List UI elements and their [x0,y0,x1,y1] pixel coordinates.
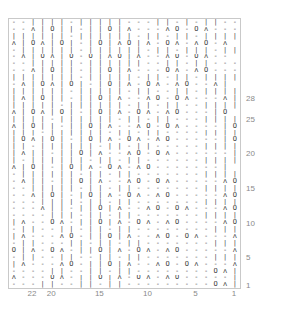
chart-cell: | [28,226,38,233]
chart-cell: | [86,219,96,226]
chart-cell: - [144,178,154,185]
chart-cell [230,54,240,61]
chart-cell: | [230,130,240,137]
chart-cell: | [47,157,57,164]
chart-cell: - [172,171,182,178]
chart-row: ----|||-||-||-------|||| [9,212,240,219]
chart-cell: | [230,102,240,109]
chart-cell: - [144,157,154,164]
chart-cell: - [57,240,67,247]
chart-cell: | [67,150,77,157]
chart-cell: ʌ [105,192,115,199]
chart-cell: - [172,116,182,123]
chart-cell: - [38,130,48,137]
chart-cell: | [38,123,48,130]
chart-cell: | [220,123,230,130]
chart-cell: - [192,143,202,150]
chart-cell: | [76,88,86,95]
chart-cell: | [134,40,144,47]
chart-cell: | [124,74,134,81]
chart-cell: | [230,143,240,150]
chart-cell: | [9,219,19,226]
chart-cell: | [47,74,57,81]
chart-cell: ʌ [172,40,182,47]
chart-cell: - [67,275,77,282]
chart-cell: | [95,185,105,192]
chart-cell: | [28,81,38,88]
chart-cell: | [76,19,86,26]
chart-cell: ʌ [124,81,134,88]
chart-cell: | [124,199,134,206]
chart-cell: | [76,123,86,130]
chart-cell: ʌ [144,247,154,254]
chart-cell: ʌ [9,109,19,116]
chart-row: ʌ|O|-|O|ʌ-Oʌ-ʌO-------| [9,164,240,171]
chart-cell: | [230,212,240,219]
chart-cell: - [76,60,86,67]
chart-cell: ʌ [153,233,163,240]
chart-cell: ʌ [115,109,125,116]
chart-cell: | [57,130,67,137]
row-tick-label: 20 [246,150,255,158]
chart-cell: O [47,275,57,282]
chart-cell: O [124,192,134,199]
chart-cell: O [124,40,134,47]
chart-row: |-||||||-||-||------|||| [9,157,240,164]
chart-cell: - [144,60,154,67]
chart-cell: | [86,233,96,240]
chart-cell: - [192,219,202,226]
chart-cell: - [163,226,173,233]
chart-cell: ʌ [57,275,67,282]
chart-cell: - [105,199,115,206]
chart-cell: - [76,233,86,240]
chart-cell: - [124,123,134,130]
chart-cell: - [192,136,202,143]
chart-row: --ʌ|O||-||O|ʌ---ʌO-Oʌ--- [9,26,240,33]
chart-cell: O [57,109,67,116]
chart-cell: | [115,33,125,40]
chart-cell: ʌ [144,109,154,116]
row-tick-label: 5 [246,254,250,262]
chart-cell: - [220,54,230,61]
chart-cell: | [230,185,240,192]
chart-cell: | [67,178,77,185]
chart-cell: - [182,130,192,137]
chart-cell: - [28,143,38,150]
chart-cell: - [211,178,221,185]
chart-cell: - [201,192,211,199]
chart-cell: | [105,281,115,288]
chart-cell: | [105,143,115,150]
chart-row: ---ʌ||-||O|ʌ--ʌO-Oʌ---ʌO [9,205,240,212]
chart-cell: | [67,102,77,109]
chart-cell: | [211,240,221,247]
chart-row: --ʌ|O||-||O|ʌ---Oʌ-ʌO--- [9,67,240,74]
chart-cell: - [105,150,115,157]
chart-cell: O [95,219,105,226]
chart-cell: ʌ [105,54,115,61]
chart-cell: - [192,212,202,219]
chart-cell: | [115,67,125,74]
chart-cell: | [86,171,96,178]
chart-cell: - [230,60,240,67]
chart-cell: ʌ [124,26,134,33]
chart-cell: ʌ [230,247,240,254]
chart-cell: O [201,67,211,74]
chart-cell: - [182,60,192,67]
chart-cell: O [163,40,173,47]
chart-cell: - [211,233,221,240]
chart-cell: | [182,47,192,54]
chart-cell: | [47,212,57,219]
chart-cell: | [95,102,105,109]
chart-cell: - [211,136,221,143]
chart-cell: - [172,240,182,247]
chart-cell: - [9,26,19,33]
chart-cell: - [67,192,77,199]
chart-cell: | [38,33,48,40]
chart-cell: - [172,254,182,261]
chart-cell: - [28,275,38,282]
chart-cell: | [134,47,144,54]
chart-cell: - [67,19,77,26]
chart-cell: | [67,26,77,33]
chart-cell: - [38,247,48,254]
chart-cell: O [153,95,163,102]
